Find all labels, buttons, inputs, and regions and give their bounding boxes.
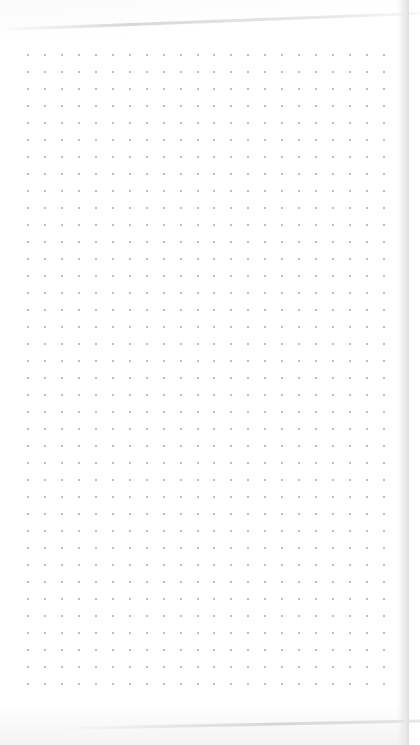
grid-dot: [315, 343, 317, 345]
grid-dot: [44, 309, 46, 311]
grid-dot: [213, 241, 215, 243]
grid-dot: [349, 309, 351, 311]
grid-dot: [146, 241, 148, 243]
grid-dot: [264, 207, 266, 209]
grid-dot: [163, 190, 165, 192]
grid-dot: [264, 105, 266, 107]
grid-dot: [298, 292, 300, 294]
grid-dot: [27, 88, 29, 90]
grid-dot: [230, 343, 232, 345]
grid-dot: [197, 88, 199, 90]
grid-dot: [349, 207, 351, 209]
grid-dot: [146, 156, 148, 158]
grid-dot: [315, 615, 317, 617]
grid-dot: [349, 173, 351, 175]
grid-dot: [213, 581, 215, 583]
grid-dot: [383, 411, 385, 413]
grid-dot: [383, 343, 385, 345]
grid-dot: [146, 445, 148, 447]
grid-dot: [163, 615, 165, 617]
grid-dot: [298, 530, 300, 532]
grid-dot: [230, 105, 232, 107]
grid-dot: [197, 530, 199, 532]
grid-dot: [281, 445, 283, 447]
grid-dot: [27, 462, 29, 464]
grid-dot: [281, 462, 283, 464]
grid-dot: [61, 105, 63, 107]
grid-dot: [383, 581, 385, 583]
grid-dot: [213, 547, 215, 549]
grid-dot: [146, 258, 148, 260]
grid-dot: [180, 428, 182, 430]
grid-dot: [197, 292, 199, 294]
grid-dot: [264, 445, 266, 447]
grid-dot: [264, 309, 266, 311]
grid-dot: [27, 224, 29, 226]
grid-dot: [230, 54, 232, 56]
grid-dot: [44, 513, 46, 515]
grid-dot: [247, 683, 249, 685]
grid-dot: [44, 479, 46, 481]
grid-dot: [129, 173, 131, 175]
grid-dot: [61, 309, 63, 311]
grid-dot: [129, 292, 131, 294]
grid-dot: [383, 632, 385, 634]
grid-dot: [129, 54, 131, 56]
grid-dot: [197, 683, 199, 685]
grid-dot: [298, 377, 300, 379]
grid-dot: [332, 105, 334, 107]
grid-dot: [213, 479, 215, 481]
grid-dot: [146, 275, 148, 277]
grid-dot: [197, 428, 199, 430]
grid-dot: [197, 343, 199, 345]
grid-dot: [95, 343, 97, 345]
grid-dot: [95, 156, 97, 158]
grid-dot: [27, 394, 29, 396]
grid-dot: [298, 683, 300, 685]
grid-dot: [44, 139, 46, 141]
grid-dot: [349, 88, 351, 90]
grid-dot: [95, 564, 97, 566]
grid-dot: [78, 411, 80, 413]
grid-dot: [61, 496, 63, 498]
grid-dot: [163, 360, 165, 362]
grid-dot: [247, 309, 249, 311]
grid-dot: [197, 54, 199, 56]
grid-dot: [332, 207, 334, 209]
grid-dot: [27, 105, 29, 107]
grid-dot: [44, 292, 46, 294]
grid-dot: [95, 547, 97, 549]
grid-dot: [27, 54, 29, 56]
grid-dot: [180, 666, 182, 668]
grid-dot: [213, 156, 215, 158]
grid-dot: [366, 156, 368, 158]
grid-dot: [332, 190, 334, 192]
grid-dot: [95, 377, 97, 379]
grid-dot: [264, 122, 266, 124]
grid-dot: [247, 360, 249, 362]
grid-dot: [349, 105, 351, 107]
grid-dot: [383, 122, 385, 124]
grid-dot: [146, 598, 148, 600]
grid-dot: [163, 224, 165, 226]
grid-dot: [281, 615, 283, 617]
grid-dot: [247, 411, 249, 413]
grid-dot: [44, 632, 46, 634]
grid-dot: [230, 258, 232, 260]
grid-dot: [163, 462, 165, 464]
grid-dot: [112, 615, 114, 617]
grid-dot: [281, 513, 283, 515]
grid-dot: [366, 513, 368, 515]
grid-dot: [27, 598, 29, 600]
grid-dot: [264, 360, 266, 362]
grid-dot: [383, 649, 385, 651]
grid-dot: [61, 343, 63, 345]
grid-dot: [197, 632, 199, 634]
grid-dot: [129, 411, 131, 413]
grid-dot: [366, 224, 368, 226]
grid-dot: [146, 343, 148, 345]
grid-dot: [213, 394, 215, 396]
grid-dot: [112, 530, 114, 532]
grid-dot: [180, 683, 182, 685]
grid-dot: [146, 411, 148, 413]
